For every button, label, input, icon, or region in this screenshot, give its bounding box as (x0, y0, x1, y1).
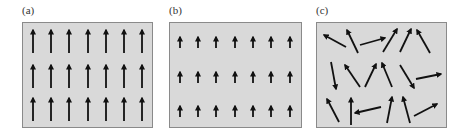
arrow-icon-group-a (33, 30, 142, 121)
arrow-icon (360, 38, 385, 45)
arrow-icon (331, 62, 336, 89)
arrow-icon (355, 107, 381, 113)
arrow-icon (382, 63, 392, 87)
arrow-icon-group-b (180, 37, 290, 117)
arrow-icon (324, 35, 346, 47)
arrow-icon (417, 30, 430, 53)
arrow-icon (414, 104, 437, 116)
arrow-icon (345, 65, 360, 87)
arrow-icon (365, 64, 376, 87)
arrow-icon (327, 99, 339, 122)
arrow-icon (403, 97, 410, 123)
arrow-icon (400, 29, 411, 52)
arrow-icon (387, 97, 392, 123)
arrows-layer (0, 0, 465, 134)
arrow-icon (416, 74, 441, 79)
arrow-icon (383, 29, 397, 52)
arrow-icon-group-c (324, 29, 441, 125)
arrow-icon (347, 30, 358, 53)
arrow-icon (400, 65, 414, 88)
